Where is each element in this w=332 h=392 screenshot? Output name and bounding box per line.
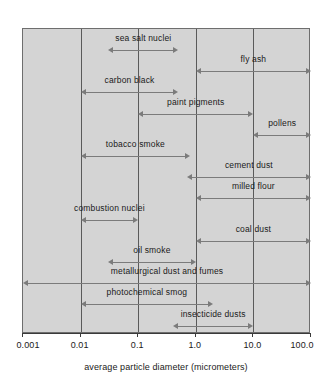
arrow-shaft — [85, 220, 135, 221]
arrow-shaft — [27, 283, 307, 284]
arrow-head-right-icon — [208, 301, 213, 307]
category-label: metallurgical dust and fumes — [111, 265, 223, 277]
arrow-shaft — [191, 177, 307, 178]
arrow-head-right-icon — [191, 259, 196, 265]
arrow-head-right-icon — [306, 280, 311, 286]
arrow-head-right-icon — [133, 217, 138, 223]
category-label: combustion nuclei — [74, 202, 145, 214]
arrow-shaft — [85, 92, 175, 93]
arrow-head-right-icon — [173, 89, 178, 95]
tick-label-100.0: 100.0 — [290, 340, 313, 350]
tick-label-0.1: 0.1 — [131, 340, 144, 350]
arrow-shaft — [200, 71, 307, 72]
tick-label-10.0: 10.0 — [243, 340, 261, 350]
arrow-head-right-icon — [306, 68, 311, 74]
arrow-shaft — [177, 326, 250, 327]
tick-mark-10.0 — [252, 333, 253, 337]
tick-mark-0.1 — [137, 333, 138, 337]
arrow-shaft — [112, 50, 174, 51]
range-arrow — [173, 323, 254, 330]
plot-area: sea salt nucleifly ashcarbon blackpaint … — [22, 28, 310, 333]
arrow-head-right-icon — [306, 238, 311, 244]
tick-mark-0.001 — [22, 333, 23, 337]
category-label: sea salt nuclei — [115, 32, 171, 44]
tick-mark-100.0 — [310, 333, 311, 337]
x-axis-title: average particle diameter (micrometers) — [0, 362, 332, 372]
arrow-shaft — [112, 262, 192, 263]
category-label: fly ash — [241, 53, 267, 65]
x-axis-line — [22, 333, 311, 334]
tick-mark-0.01 — [80, 333, 81, 337]
category-label: pollens — [268, 117, 296, 129]
arrow-head-right-icon — [248, 323, 253, 329]
tick-mark-1.0 — [195, 333, 196, 337]
arrow-shaft — [200, 198, 307, 199]
category-label: oil smoke — [133, 244, 170, 256]
category-label: carbon black — [105, 74, 155, 86]
arrow-shaft — [200, 241, 307, 242]
category-label: photochemical smog — [107, 286, 188, 298]
category-row: insecticide dusts — [23, 308, 309, 332]
tick-label-0.001: 0.001 — [16, 340, 39, 350]
arrow-head-right-icon — [306, 132, 311, 138]
particle-size-chart: sea salt nucleifly ashcarbon blackpaint … — [0, 0, 332, 392]
category-label: paint pigments — [167, 96, 224, 108]
arrow-head-right-icon — [306, 195, 311, 201]
arrow-head-right-icon — [185, 153, 190, 159]
arrow-shaft — [85, 304, 210, 305]
category-label: coal dust — [236, 223, 271, 235]
category-label: milled flour — [232, 180, 275, 192]
arrow-shaft — [257, 135, 307, 136]
category-label: insecticide dusts — [181, 308, 246, 320]
arrow-head-right-icon — [306, 174, 311, 180]
category-label: tobacco smoke — [106, 138, 165, 150]
arrow-head-right-icon — [173, 47, 178, 53]
arrow-shaft — [85, 156, 187, 157]
tick-label-0.01: 0.01 — [71, 340, 89, 350]
tick-label-1.0: 1.0 — [188, 340, 201, 350]
category-label: cement dust — [225, 159, 273, 171]
arrow-head-right-icon — [248, 111, 253, 117]
arrow-shaft — [142, 114, 249, 115]
